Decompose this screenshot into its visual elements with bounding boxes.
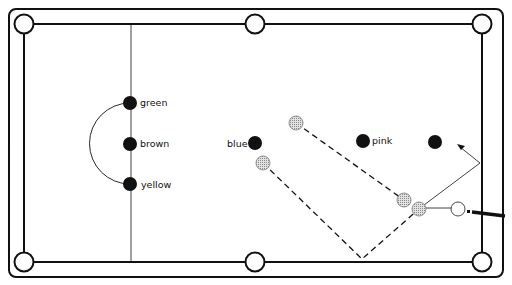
arrowhead-icon: [457, 144, 465, 150]
pocket-top-right: [473, 15, 492, 34]
pocket-top-left: [15, 15, 34, 34]
cue-ball: [451, 202, 465, 216]
ball-black: [428, 135, 442, 149]
pocket-bottom-middle: [246, 253, 265, 272]
snooker-diagram: green brown yellow blue pink: [0, 0, 512, 285]
ball-yellow: [123, 177, 137, 191]
label-pink: pink: [372, 135, 393, 146]
ball-brown: [123, 137, 137, 151]
ghost-ball-1: [289, 116, 303, 130]
cue-stick: [472, 212, 505, 216]
lower-dashed-path: [263, 163, 419, 259]
label-green: green: [140, 97, 167, 108]
ghost-ball-3: [397, 193, 411, 207]
pocket-top-middle: [246, 15, 265, 34]
label-yellow: yellow: [141, 179, 172, 190]
ball-pink: [356, 134, 370, 148]
ghost-ball-4: [412, 202, 426, 216]
cue-ball-deflection-path: [424, 147, 480, 205]
ball-green: [123, 96, 137, 110]
label-brown: brown: [140, 138, 169, 149]
pocket-bottom-right: [473, 253, 492, 272]
ball-blue: [248, 136, 262, 150]
ghost-ball-2: [256, 156, 270, 170]
label-blue: blue: [227, 138, 248, 149]
pocket-bottom-left: [15, 253, 34, 272]
cue-tip: [467, 210, 470, 213]
